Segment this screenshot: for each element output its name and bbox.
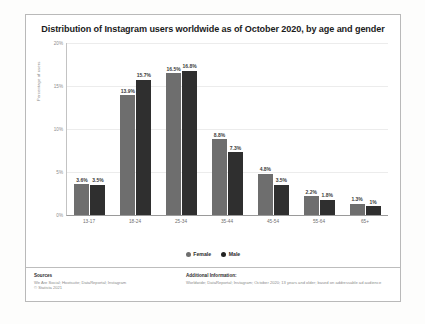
statista-chart-card: Distribution of Instagram users worldwid…: [25, 14, 401, 302]
y-tick-15: 15%: [54, 84, 63, 89]
bar-group: 8.8%7.3%: [205, 43, 251, 215]
bar-male[interactable]: 1.8%: [320, 200, 335, 215]
x-axis-labels: 13-1718-2425-3435-4445-5455-6465+: [66, 219, 388, 224]
bar-groups: 3.6%3.5%13.9%15.7%16.5%16.8%8.8%7.3%4.8%…: [67, 43, 388, 215]
chart-legend: Female Male: [26, 251, 400, 257]
y-tick-20: 20%: [54, 41, 63, 46]
footer-sources-heading: Sources: [34, 273, 174, 278]
legend-swatch-female-icon: [186, 252, 191, 257]
bar-group: 3.6%3.5%: [67, 43, 113, 215]
bar-male[interactable]: 7.3%: [228, 152, 243, 215]
bar-value-label: 16.5%: [167, 66, 181, 72]
bar-male[interactable]: 3.5%: [90, 185, 105, 215]
bar-group: 1.3%1%: [342, 43, 388, 215]
bar-female[interactable]: 1.3%: [350, 204, 365, 215]
x-tick-label: 18-24: [112, 219, 158, 224]
page-title: Distribution of Instagram users worldwid…: [26, 24, 400, 34]
legend-label-female: Female: [193, 251, 211, 257]
bar-value-label: 1.3%: [351, 196, 362, 202]
bar-value-label: 2.2%: [306, 189, 317, 195]
x-tick-label: 45-54: [250, 219, 296, 224]
bar-group: 4.8%3.5%: [250, 43, 296, 215]
bar-plot: 3.6%3.5%13.9%15.7%16.5%16.8%8.8%7.3%4.8%…: [66, 43, 388, 216]
y-tick-5: 5%: [56, 170, 63, 175]
bar-female[interactable]: 4.8%: [258, 174, 273, 215]
bar-male[interactable]: 16.8%: [182, 71, 197, 215]
bar-group: 16.5%16.8%: [159, 43, 205, 215]
footer-additional-heading: Additional Information:: [186, 273, 396, 278]
y-axis-ticks: 0% 5% 10% 15% 20%: [40, 43, 66, 243]
bar-male[interactable]: 15.7%: [136, 80, 151, 215]
y-tick-10: 10%: [54, 127, 63, 132]
x-tick-label: 13-17: [66, 219, 112, 224]
x-tick-label: 35-44: [204, 219, 250, 224]
footer-additional-info: Additional Information: Worldwide; DataR…: [178, 267, 400, 302]
x-tick-label: 65+: [342, 219, 388, 224]
bar-female[interactable]: 3.6%: [74, 184, 89, 215]
bar-value-label: 1%: [369, 199, 376, 205]
bar-value-label: 3.5%: [92, 177, 103, 183]
x-tick-label: 55-64: [296, 219, 342, 224]
y-tick-0: 0%: [56, 213, 63, 218]
bar-value-label: 3.5%: [276, 177, 287, 183]
bar-group: 13.9%15.7%: [113, 43, 159, 215]
bar-female[interactable]: 16.5%: [166, 73, 181, 215]
bar-value-label: 16.8%: [183, 63, 197, 69]
bar-female[interactable]: 8.8%: [212, 139, 227, 215]
bar-value-label: 4.8%: [260, 166, 271, 172]
bar-male[interactable]: 1%: [366, 206, 381, 215]
footer-sources-body: We Are Social; Hootsuite; DataReportal; …: [34, 280, 174, 292]
bar-group: 2.2%1.8%: [296, 43, 342, 215]
legend-swatch-male-icon: [221, 252, 226, 257]
legend-label-male: Male: [229, 251, 241, 257]
legend-item-male[interactable]: Male: [221, 251, 240, 257]
bar-value-label: 8.8%: [214, 132, 225, 138]
legend-item-female[interactable]: Female: [186, 251, 211, 257]
footer-additional-body: Worldwide; DataReportal; Instagram; Octo…: [186, 280, 396, 286]
bar-value-label: 3.6%: [76, 177, 87, 183]
bar-male[interactable]: 3.5%: [274, 185, 289, 215]
scanned-page: Distribution of Instagram users worldwid…: [0, 0, 425, 324]
bar-value-label: 13.9%: [121, 88, 135, 94]
plot-area: Percentage of users 0% 5% 10% 15% 20% 3.…: [40, 43, 388, 243]
bar-value-label: 15.7%: [137, 72, 151, 78]
bar-female[interactable]: 2.2%: [304, 196, 319, 215]
chart-footer: Sources We Are Social; Hootsuite; DataRe…: [26, 267, 400, 302]
bar-value-label: 1.8%: [322, 192, 333, 198]
x-tick-label: 25-34: [158, 219, 204, 224]
footer-sources: Sources We Are Social; Hootsuite; DataRe…: [26, 267, 178, 302]
bar-female[interactable]: 13.9%: [120, 95, 135, 215]
bar-value-label: 7.3%: [230, 145, 241, 151]
